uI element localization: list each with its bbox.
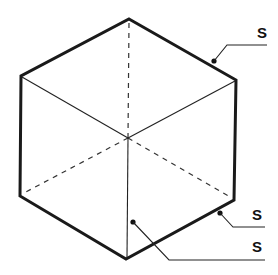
hidden-edge-top — [128, 22, 129, 138]
label-top-right: S — [257, 24, 267, 41]
cube-diagram: S S S — [0, 0, 278, 275]
inner-edge-bottom — [127, 138, 128, 257]
leader-line-top-right — [214, 45, 267, 61]
inner-edge-upper-left — [22, 77, 128, 138]
label-lower-right: S — [252, 206, 262, 223]
inner-edge-upper-right — [128, 81, 235, 138]
hidden-edge-lower-right — [128, 138, 232, 198]
leader-line-bottom — [133, 222, 265, 260]
hidden-edge-lower-left — [22, 138, 128, 194]
label-bottom: S — [252, 238, 262, 255]
